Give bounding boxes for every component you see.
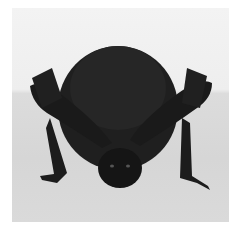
bat-illustration — [12, 8, 229, 222]
bat-photo — [12, 8, 229, 222]
